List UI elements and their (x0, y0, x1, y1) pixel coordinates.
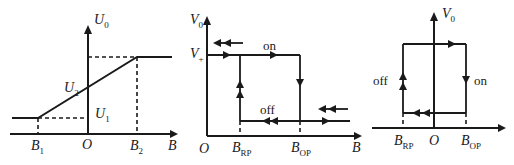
left-arrow-icon (213, 39, 221, 47)
y-axis-arrow-icon (84, 25, 92, 34)
on-label: on (263, 38, 277, 53)
up-arrow-icon (399, 72, 407, 80)
x-axis-arrow-icon (498, 124, 506, 132)
origin-label: O (429, 133, 439, 148)
b2-label: B2 (130, 138, 143, 156)
output-curve (12, 57, 172, 118)
down-arrow-icon (462, 76, 470, 84)
right-arrow-icon (223, 51, 231, 59)
off-label: off (373, 73, 389, 88)
brp-label: BRP (394, 133, 414, 151)
origin-label: O (199, 141, 209, 156)
left-arrow-icon (318, 105, 326, 113)
u1-label: U1 (95, 106, 110, 124)
u2-label: U2 (64, 80, 79, 98)
y-axis-label: V0 (442, 6, 456, 24)
up-arrow-icon (399, 82, 407, 90)
right-arrow-icon (322, 117, 330, 125)
bop-label: BOP (291, 140, 311, 158)
left-arrow-icon (328, 105, 336, 113)
left-arrow-icon (412, 109, 420, 117)
down-arrow-icon (296, 79, 304, 87)
brp-label: BRP (232, 140, 252, 158)
panel-linear: U0 U2 U1 B1 O B2 B (10, 12, 178, 156)
panel-unipolar: V0 V+ on off O BRP BOP B (190, 12, 362, 158)
y-axis-label: V0 (190, 12, 204, 30)
right-arrow-icon (448, 40, 456, 48)
hall-sensor-diagrams: U0 U2 U1 B1 O B2 B (0, 0, 514, 165)
y-axis-label: U0 (94, 12, 109, 30)
left-arrow-icon (422, 109, 430, 117)
y-axis-arrow-icon (430, 12, 438, 21)
x-axis-label: B (168, 138, 177, 153)
on-label: on (474, 73, 488, 88)
left-arrow-icon (262, 117, 270, 125)
off-label: off (260, 102, 276, 117)
x-axis-arrow-icon (354, 132, 362, 140)
panel-bipolar: V0 off on BRP O BOP (372, 6, 506, 151)
origin-label: O (82, 137, 92, 152)
y-axis-arrow-icon (203, 16, 211, 25)
left-arrow-icon (223, 39, 231, 47)
b1-label: B1 (31, 138, 44, 156)
left-arrow-icon (270, 117, 278, 125)
x-axis-label: B (352, 140, 361, 155)
up-arrow-icon (236, 80, 244, 88)
x-axis-arrow-icon (170, 130, 178, 138)
vplus-label: V+ (190, 46, 204, 64)
bop-label: BOP (461, 133, 481, 151)
up-arrow-icon (236, 90, 244, 98)
